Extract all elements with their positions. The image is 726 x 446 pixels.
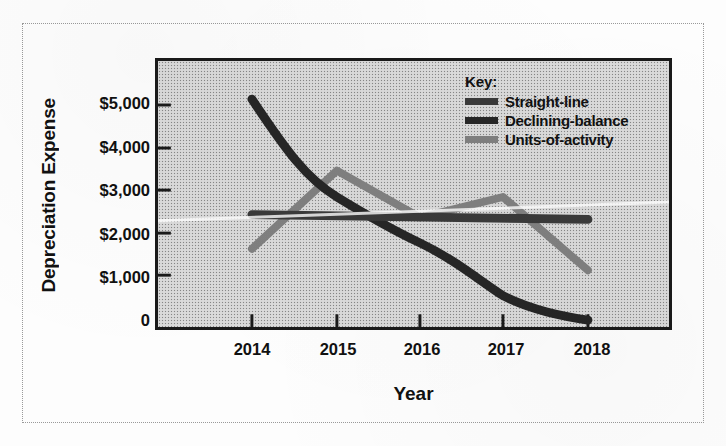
legend-item-units-of-activity: Units-of-activity [465, 131, 665, 148]
legend-swatch-icon [465, 117, 498, 124]
y-tick-label: $3,000 [60, 181, 150, 200]
x-tick-label: 2018 [557, 340, 627, 359]
y-tick-label: $4,000 [60, 138, 150, 157]
legend-swatch-icon [465, 136, 498, 143]
legend-item-label: Declining-balance [505, 112, 628, 129]
legend-title: Key: [465, 73, 665, 90]
x-tick-label: 2015 [303, 340, 373, 359]
x-tick-label: 2017 [471, 340, 541, 359]
legend-item-label: Units-of-activity [505, 131, 613, 148]
y-tick-label: $5,000 [60, 94, 150, 113]
y-tick-label: $2,000 [60, 225, 150, 244]
series-line-straight-line [252, 215, 588, 220]
y-tick-label: 0 [60, 311, 150, 330]
y-axis-tick-labels: $5,000 $4,000 $3,000 $2,000 $1,000 0 [55, 0, 150, 446]
legend-item-label: Straight-line [505, 93, 589, 110]
x-tick-label: 2016 [387, 340, 457, 359]
legend-item-straight-line: Straight-line [465, 93, 665, 110]
x-tick-label: 2014 [217, 340, 287, 359]
y-tick-label: $1,000 [60, 268, 150, 287]
x-axis-tick-labels: 2014 2015 2016 2017 2018 [0, 340, 726, 370]
x-axis-ticks [252, 314, 588, 327]
legend-item-declining-balance: Declining-balance [465, 112, 665, 129]
legend: Key: Straight-line Declining-balance Uni… [465, 73, 665, 150]
y-axis-ticks [158, 105, 171, 275]
scanned-page: Depreciation Expense $5,000 $4,000 $3,00… [0, 0, 726, 446]
x-axis-title: Year [155, 383, 672, 405]
legend-swatch-icon [465, 98, 498, 105]
plot-area: Key: Straight-line Declining-balance Uni… [155, 58, 672, 330]
